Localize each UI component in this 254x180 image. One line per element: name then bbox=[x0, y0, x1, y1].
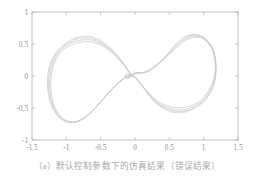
y-tick-label: 0.5 bbox=[19, 41, 28, 49]
x-tick-label: -0.5 bbox=[95, 144, 107, 152]
y-tick-label: 1 bbox=[24, 9, 28, 17]
x-tick-label: 0.5 bbox=[165, 144, 174, 152]
y-tick-label: -1 bbox=[22, 137, 28, 145]
trajectory-trace bbox=[48, 35, 216, 123]
simulation-result-figure: -1.5-1-0.500.511.5 -1-0.500.51 （a）默认控制参数… bbox=[0, 0, 254, 180]
trajectory-plot: -1.5-1-0.500.511.5 -1-0.500.51 bbox=[0, 0, 254, 180]
y-tick-label: 0 bbox=[24, 73, 28, 81]
trajectory-traces-group bbox=[47, 35, 216, 123]
x-axis-tick-labels: -1.5-1-0.500.511.5 bbox=[26, 144, 243, 152]
tick-marks-group bbox=[32, 12, 238, 140]
y-tick-label: -0.5 bbox=[17, 105, 29, 113]
x-tick-label: 1.5 bbox=[234, 144, 243, 152]
x-tick-label: -1 bbox=[63, 144, 69, 152]
x-tick-label: 0 bbox=[133, 144, 137, 152]
x-tick-label: 1 bbox=[202, 144, 206, 152]
figure-caption: （a）默认控制参数下的仿真结果（错误结果） bbox=[0, 159, 254, 171]
plot-axes-frame bbox=[32, 12, 238, 140]
y-axis-tick-labels: -1-0.500.51 bbox=[17, 9, 29, 145]
x-tick-label: -1.5 bbox=[26, 144, 38, 152]
